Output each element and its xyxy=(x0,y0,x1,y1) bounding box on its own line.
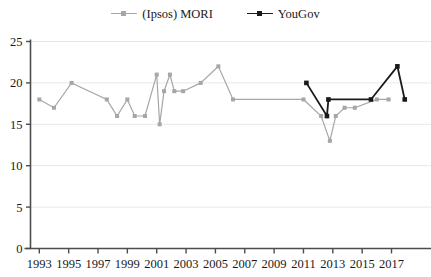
x-axis-tick-label: 2001 xyxy=(144,257,169,271)
data-point-marker xyxy=(105,97,109,101)
data-point-marker xyxy=(395,64,400,69)
data-point-marker xyxy=(369,97,374,102)
series-line xyxy=(39,66,388,141)
data-point-marker xyxy=(143,114,147,118)
data-point-marker xyxy=(125,97,129,101)
x-axis-tick-label: 1997 xyxy=(86,257,111,271)
series-ipsos-mori xyxy=(37,64,390,143)
data-point-marker xyxy=(304,81,309,86)
x-axis-tick-label: 2005 xyxy=(203,257,228,271)
x-axis-tick-label: 2017 xyxy=(379,257,404,271)
series-yougov xyxy=(304,64,407,118)
data-point-marker xyxy=(155,73,159,77)
data-point-marker xyxy=(387,97,391,101)
plot-area: 0510152025199319951997199920012003200520… xyxy=(0,0,431,277)
data-point-marker xyxy=(37,97,41,101)
data-point-marker xyxy=(326,97,331,102)
data-point-marker xyxy=(52,106,56,110)
y-axis-tick-label: 15 xyxy=(10,118,23,132)
data-point-marker xyxy=(325,114,330,119)
data-point-marker xyxy=(334,114,338,118)
data-point-marker xyxy=(402,97,407,102)
y-axis-tick-label: 0 xyxy=(16,242,22,256)
x-axis-tick-label: 2011 xyxy=(291,257,316,271)
data-point-marker xyxy=(168,73,172,77)
data-point-marker xyxy=(353,106,357,110)
y-axis-tick-label: 20 xyxy=(10,76,23,90)
x-axis-tick-label: 2009 xyxy=(262,257,287,271)
y-axis-tick-label: 25 xyxy=(10,35,23,49)
data-point-marker xyxy=(162,89,166,93)
x-axis-tick-label: 2003 xyxy=(174,257,199,271)
x-axis-tick-label: 1995 xyxy=(56,257,81,271)
x-axis-tick-label: 1999 xyxy=(115,257,140,271)
y-axis-tick-label: 5 xyxy=(16,201,22,215)
data-point-marker xyxy=(158,122,162,126)
data-point-marker xyxy=(231,97,235,101)
y-axis-tick-label: 10 xyxy=(10,159,23,173)
x-axis-tick-label: 2015 xyxy=(350,257,375,271)
data-point-marker xyxy=(343,106,347,110)
data-point-marker xyxy=(328,139,332,143)
data-point-marker xyxy=(70,81,74,85)
data-point-marker xyxy=(115,114,119,118)
data-point-marker xyxy=(375,97,379,101)
x-axis-tick-label: 1993 xyxy=(27,257,52,271)
x-axis-tick-label: 2013 xyxy=(320,257,345,271)
data-point-marker xyxy=(181,89,185,93)
x-axis-tick-label: 2007 xyxy=(232,257,257,271)
data-point-marker xyxy=(216,64,220,68)
data-point-marker xyxy=(301,97,305,101)
data-point-marker xyxy=(199,81,203,85)
data-point-marker xyxy=(319,114,323,118)
data-point-marker xyxy=(133,114,137,118)
chart-container: (Ipsos) MORI YouGov 05101520251993199519… xyxy=(0,0,431,277)
data-point-marker xyxy=(172,89,176,93)
